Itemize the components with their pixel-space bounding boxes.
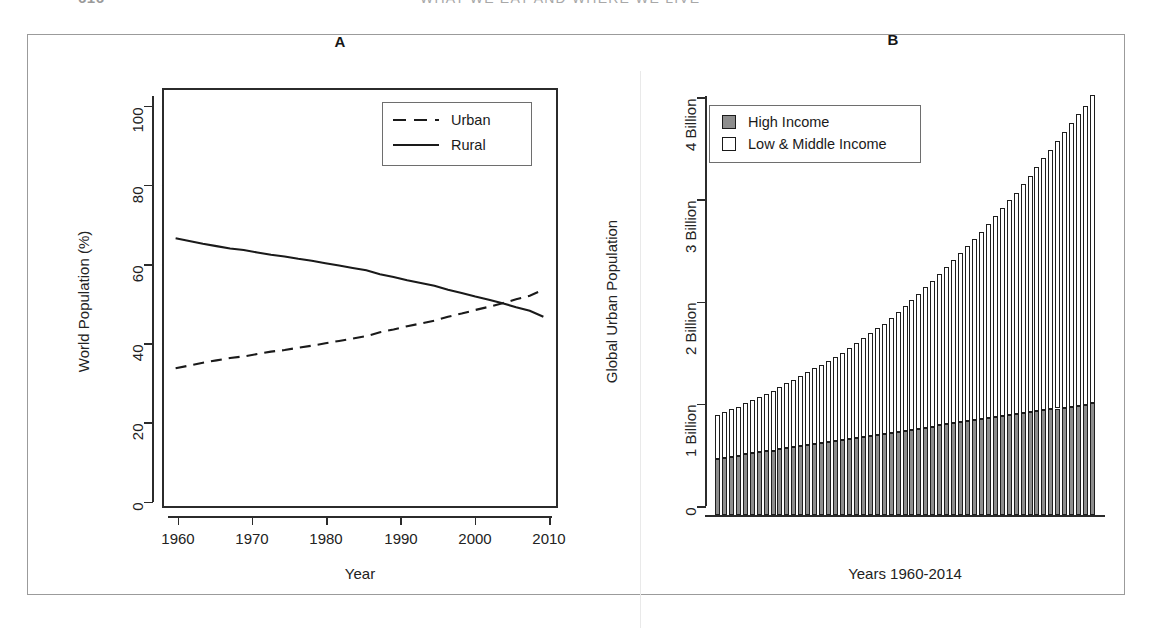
- panel-a-y-tick-label-60: 60: [129, 266, 146, 320]
- solid-line-icon: [393, 138, 439, 152]
- panel-a-legend: Urban Rural: [382, 102, 532, 166]
- panel-a-x-tick-2010: [549, 516, 551, 525]
- panel-b-y-axis-title: Global Urban Population: [603, 202, 620, 402]
- empty-square-icon: [722, 137, 736, 151]
- panel-a-x-tick-1970: [252, 516, 254, 525]
- legend-label-urban: Urban: [451, 112, 491, 128]
- legend-label-high-income: High Income: [748, 114, 829, 130]
- panel-b-y-tick-label-4: 4 Billion: [682, 99, 699, 169]
- page-header-strip: 616 WHAT WE EAT AND WHERE WE LIVE: [0, 0, 1151, 16]
- panel-a-y-tick-label-0: 0: [129, 503, 146, 557]
- panel-a-x-tick-label-1960: 1960: [152, 530, 204, 547]
- panel-b-x-axis: [705, 515, 1105, 517]
- panel-a-x-tick-label-1990: 1990: [375, 530, 427, 547]
- running-head-title: WHAT WE EAT AND WHERE WE LIVE: [420, 0, 700, 6]
- panel-b-y-tick-label-3: 3 Billion: [682, 201, 699, 271]
- legend-label-rural: Rural: [451, 137, 486, 153]
- panel-a-y-tick-label-40: 40: [129, 345, 146, 399]
- panel-b-y-tick-label-0: 0: [682, 508, 699, 578]
- panel-divider: [640, 71, 641, 628]
- panel-b-x-axis-title: Years 1960-2014: [805, 565, 1005, 582]
- legend-item-high-income[interactable]: High Income: [722, 114, 829, 130]
- panel-a-x-tick-label-1970: 1970: [226, 530, 278, 547]
- panel-a-plot-box-bottom: [162, 506, 558, 508]
- panel-a-x-tick-1990: [400, 516, 402, 525]
- panel-a-y-tick-label-80: 80: [129, 187, 146, 241]
- panel-a-y-tick-label-100: 100: [129, 108, 146, 162]
- panel-a-x-tick-label-2000: 2000: [449, 530, 501, 547]
- panel-a-plot-box-top: [162, 88, 558, 90]
- panel-a-y-axis: [152, 96, 154, 502]
- panel-a-x-tick-2000: [475, 516, 477, 525]
- panel-a-x-axis-title: Year: [260, 565, 460, 582]
- panel-a-x-tick-label-1980: 1980: [300, 530, 352, 547]
- panel-a-plot-box-left: [162, 88, 164, 508]
- panel-b-legend: High Income Low & Middle Income: [709, 105, 921, 163]
- panel-a-y-tick-label-20: 20: [129, 424, 146, 478]
- legend-item-rural[interactable]: Rural: [393, 137, 486, 153]
- panel-b-title: B: [853, 31, 933, 48]
- legend-item-low-middle-income[interactable]: Low & Middle Income: [722, 136, 887, 152]
- filled-square-icon: [722, 115, 736, 129]
- panel-b-y-tick-label-2: 2 Billion: [682, 303, 699, 373]
- panel-a-plot-box-right: [556, 88, 558, 508]
- page-folio-number: 616: [78, 0, 105, 6]
- legend-label-low-middle-income: Low & Middle Income: [748, 136, 887, 152]
- panel-b-y-tick-label-1: 1 Billion: [682, 405, 699, 475]
- panel-a-x-tick-1980: [326, 516, 328, 525]
- panel-a-x-tick-1960: [178, 516, 180, 525]
- panel-a-title: A: [300, 33, 380, 50]
- panel-a-y-axis-title: World Population (%): [75, 202, 92, 402]
- panel-a-x-tick-label-2010: 2010: [523, 530, 575, 547]
- dashed-line-icon: [393, 113, 439, 127]
- figure-frame: [27, 34, 1125, 595]
- panel-a-x-axis: [168, 516, 552, 518]
- legend-item-urban[interactable]: Urban: [393, 112, 491, 128]
